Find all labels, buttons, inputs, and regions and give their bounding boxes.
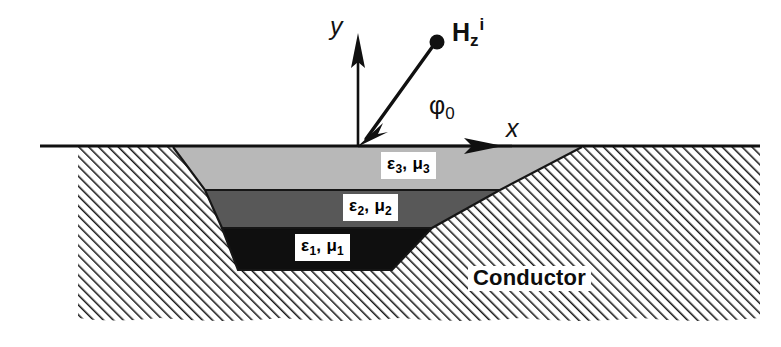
- layer-3-mu: μ: [412, 154, 423, 173]
- incident-field-superscript: i: [480, 15, 485, 34]
- incident-wave-source-dot: [430, 35, 445, 50]
- incident-field-subscript: z: [470, 31, 479, 50]
- incidence-angle-label: φ0: [429, 93, 455, 122]
- layer-1-separator: ,: [316, 236, 326, 255]
- layer-3-mu-subscript: 3: [423, 162, 430, 176]
- layer-1-mu: μ: [326, 236, 337, 255]
- incident-field-symbol: H: [452, 18, 470, 46]
- layer-1-mu-subscript: 1: [337, 244, 344, 258]
- incident-ray-arrowhead: [357, 123, 388, 147]
- phi-symbol: φ: [429, 91, 445, 119]
- layer-2-label: ε2, μ2: [343, 194, 398, 221]
- y-axis-label: y: [330, 14, 343, 39]
- x-axis-label: x: [506, 116, 519, 141]
- layer-2-mu-subscript: 2: [385, 204, 392, 218]
- layer-1-label: ε1, μ1: [295, 234, 350, 261]
- layer-2-mu: μ: [374, 196, 385, 215]
- layer-3-separator: ,: [402, 154, 412, 173]
- layer-2-separator: ,: [364, 196, 374, 215]
- phi-subscript: 0: [445, 104, 454, 123]
- layer-3-label: ε3, μ3: [381, 152, 436, 179]
- incident-field-label: Hzi: [452, 16, 484, 49]
- conductor-label: Conductor: [468, 266, 591, 291]
- incident-ray-line: [366, 46, 433, 139]
- figure-root: y x Hzi φ0 ε3, μ3 ε2, μ2 ε1, μ1 Conducto…: [0, 0, 781, 347]
